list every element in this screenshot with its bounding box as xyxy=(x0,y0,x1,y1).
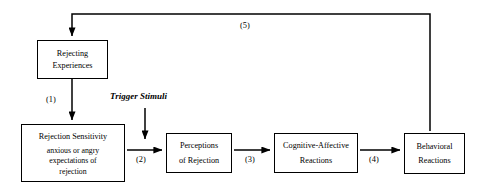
edge-label-4: (4) xyxy=(369,155,379,164)
node-behavioral-reactions: Behavioral Reactions xyxy=(404,133,465,174)
node-rejection-sensitivity-heading: Rejection Sensitivity xyxy=(39,131,107,142)
diagram-canvas: Rejecting Experiences Rejection Sensitiv… xyxy=(0,0,480,195)
node-behavioral-line-2: Reactions xyxy=(418,154,450,168)
node-perceptions-line-2: of Rejection xyxy=(179,153,219,167)
node-cognitive-affective-line-1: Cognitive-Affective xyxy=(283,139,349,153)
edge-feedback-5 xyxy=(72,14,430,131)
node-cognitive-affective-line-2: Reactions xyxy=(300,153,332,167)
edge-label-3: (3) xyxy=(245,155,255,164)
annotation-trigger-stimuli: Trigger Stimuli xyxy=(110,91,167,101)
node-rejecting-experiences: Rejecting Experiences xyxy=(37,40,108,79)
node-rejection-sensitivity-line-1: anxious or angry xyxy=(47,146,99,156)
node-rejection-sensitivity-line-3: rejection xyxy=(59,167,86,177)
node-rejection-sensitivity-line-2: expectations of xyxy=(49,156,96,166)
edge-label-1: (1) xyxy=(46,95,56,104)
edge-label-2: (2) xyxy=(136,155,146,164)
node-rejection-sensitivity: Rejection Sensitivity anxious or angry e… xyxy=(21,124,125,182)
node-rejecting-experiences-line-2: Experiences xyxy=(52,60,92,72)
node-perceptions-line-1: Perceptions xyxy=(180,139,218,153)
node-behavioral-line-1: Behavioral xyxy=(417,139,453,153)
edge-label-5: (5) xyxy=(240,21,250,30)
node-cognitive-affective-reactions: Cognitive-Affective Reactions xyxy=(274,133,358,173)
node-perceptions-of-rejection: Perceptions of Rejection xyxy=(166,133,232,173)
node-rejecting-experiences-line-1: Rejecting xyxy=(57,47,88,59)
